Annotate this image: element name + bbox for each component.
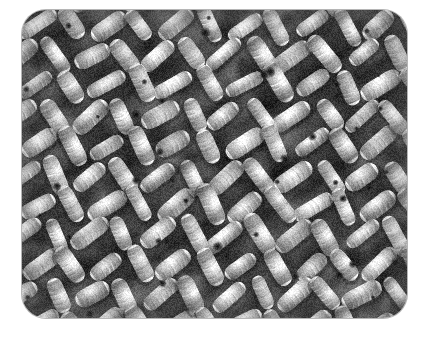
image-stage xyxy=(0,0,429,338)
knit-texture-photo-panel xyxy=(22,10,407,318)
knit-fabric-texture-image xyxy=(22,10,407,318)
